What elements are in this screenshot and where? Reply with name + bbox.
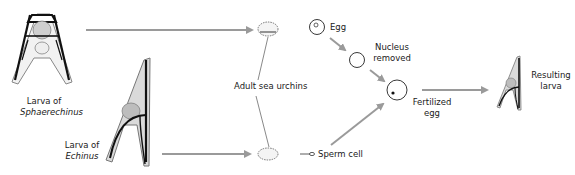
label-line: Nucleus: [370, 42, 414, 53]
resulting-larva-icon: [497, 56, 521, 110]
label-fertilized-egg: Fertilized egg: [410, 97, 454, 119]
label-line: egg: [410, 108, 454, 119]
label-larva-of-echinus: Larva of Echinus: [60, 140, 104, 162]
egg-icon: [310, 20, 325, 35]
sea-urchin-nuclear-transfer-diagram: Larva of Sphaerechinus Larva of Echinus …: [0, 0, 575, 175]
label-line: Larva of: [60, 140, 104, 151]
label-line: Fertilized: [410, 97, 454, 108]
echinus-larva-icon: [106, 58, 150, 166]
arrow-sperm-to-fertilized: [331, 104, 383, 145]
sperm-cell-icon: [300, 152, 315, 155]
sphaerechinus-larva-icon: [12, 14, 72, 84]
adult-sea-urchin-top-icon: [258, 22, 278, 36]
label-line: larva: [527, 81, 575, 92]
label-larva-of-sphaerechinus: Larva of Sphaerechinus: [20, 96, 68, 118]
label-line: Larva of: [20, 96, 68, 107]
fertilized-egg-icon: [387, 80, 407, 100]
label-line: Sphaerechinus: [20, 107, 68, 118]
label-adult-sea-urchins: Adult sea urchins: [234, 81, 307, 92]
label-nucleus-removed: Nucleus removed: [370, 42, 414, 64]
arrow-egg-to-enucleated: [330, 38, 345, 50]
label-egg: Egg: [330, 22, 346, 33]
label-line: Echinus: [60, 151, 104, 162]
label-sperm-cell: Sperm cell: [318, 149, 363, 160]
label-resulting-larva: Resulting larva: [527, 70, 575, 92]
adult-sea-urchin-bottom-icon: [258, 148, 278, 160]
arrow-enucleated-to-fertilized: [370, 70, 384, 81]
enucleated-egg-icon: [350, 53, 365, 68]
label-line: Resulting: [527, 70, 575, 81]
label-line: removed: [370, 53, 414, 64]
